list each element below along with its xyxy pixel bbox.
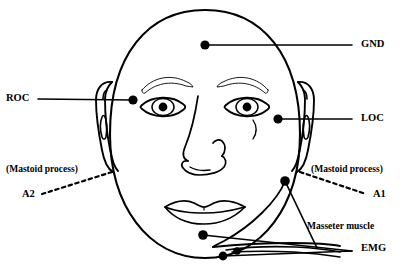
- electrode-dot-emg-chin-2: [233, 247, 241, 255]
- label-mastoid-right: (Mastoid process): [311, 165, 383, 175]
- label-masseter-muscle: Masseter muscle: [307, 222, 374, 232]
- pupil-left: [159, 103, 168, 112]
- electrode-dot-emg-chin: [219, 252, 228, 261]
- electrode-dot-emg-upper: [280, 176, 290, 186]
- eyebrow-right: [217, 77, 268, 93]
- electrode-dot-roc: [128, 95, 137, 104]
- eye-left: [141, 98, 186, 117]
- label-loc: LOC: [361, 113, 384, 124]
- electrode-dot-emg-submental: [198, 230, 208, 240]
- leader-emg-submental: [203, 235, 352, 251]
- leader-a1: [300, 172, 366, 194]
- figure-canvas: GND ROC LOC (Mastoid process) (Mastoid p…: [0, 0, 404, 267]
- nose: [182, 96, 226, 175]
- label-a1: A1: [373, 189, 386, 200]
- leader-a2: [42, 172, 112, 194]
- label-a2: A2: [22, 189, 35, 200]
- pupil-right: [243, 103, 252, 112]
- ear-right: [292, 82, 314, 172]
- eyebrow-left: [142, 77, 193, 93]
- electrode-dot-gnd: [200, 40, 209, 49]
- eye-right: [225, 98, 270, 117]
- label-emg: EMG: [361, 243, 386, 254]
- crease-right-eye: [253, 120, 256, 139]
- label-gnd: GND: [361, 39, 384, 50]
- ear-left: [96, 82, 118, 172]
- leader-roc: [38, 99, 133, 100]
- label-mastoid-left: (Mastoid process): [6, 165, 78, 175]
- electrode-dot-loc: [273, 114, 282, 123]
- mouth: [165, 201, 245, 224]
- label-roc: ROC: [6, 93, 29, 104]
- leader-emg-upper: [285, 181, 317, 248]
